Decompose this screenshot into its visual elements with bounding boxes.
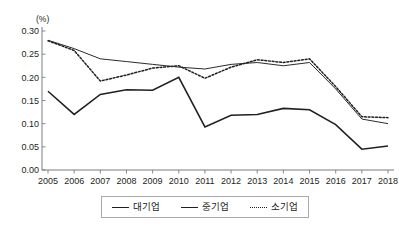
x-axis-tick-label: 2005 [38,176,58,186]
line-chart-svg: 0.000.050.100.150.200.250.30 20052006200… [0,0,399,190]
x-axis-tick-label: 2016 [326,176,346,186]
y-axis-tick-label: 0.20 [21,73,39,83]
y-axis-tick-label: 0.00 [21,165,39,175]
legend-item-daegieop[interactable]: 대기업 [112,202,160,212]
x-axis-tick-label: 2011 [195,176,214,186]
legend-item-junggieop[interactable]: 중기업 [181,202,229,212]
x-axis-tick-label: 2006 [64,176,84,186]
y-axis-tick-label: 0.15 [21,96,39,106]
x-axis-tick-label: 2010 [169,176,189,186]
legend-line-icon-junggieop [181,204,198,211]
x-axis-tick-label: 2007 [90,176,110,186]
series-line-junggieop [48,40,388,123]
x-axis-tick-label: 2014 [273,176,293,186]
x-axis-tick-group: 2005200620072008200920102011201220132014… [38,170,398,186]
legend-line-icon-sogieop [250,204,267,211]
legend-label-junggieop: 중기업 [202,202,229,212]
x-axis-tick-label: 2012 [221,176,241,186]
x-axis-tick-label: 2008 [116,176,136,186]
data-series-group [48,40,388,149]
legend-item-sogieop[interactable]: 소기업 [250,202,298,212]
y-axis-tick-label: 0.25 [21,49,39,59]
x-axis-tick-label: 2017 [352,176,372,186]
x-axis-tick-label: 2013 [247,176,267,186]
series-line-sogieop [48,41,388,118]
chart-figure: 0.000.050.100.150.200.250.30 20052006200… [0,0,399,233]
y-axis-tick-label: 0.30 [21,26,39,36]
x-axis-tick-label: 2018 [378,176,398,186]
chart-legend: 대기업 중기업 소기업 [101,196,309,218]
x-axis-tick-label: 2009 [143,176,163,186]
x-axis-tick-label: 2015 [300,176,320,186]
legend-line-icon-daegieop [112,204,129,211]
legend-label-sogieop: 소기업 [271,202,298,212]
legend-label-daegieop: 대기업 [133,202,160,212]
y-axis-tick-label: 0.10 [21,119,39,129]
y-axis-unit-label: (%) [36,14,49,24]
y-axis-tick-label: 0.05 [21,142,39,152]
chart-plot-area: 0.000.050.100.150.200.250.30 20052006200… [0,0,399,190]
